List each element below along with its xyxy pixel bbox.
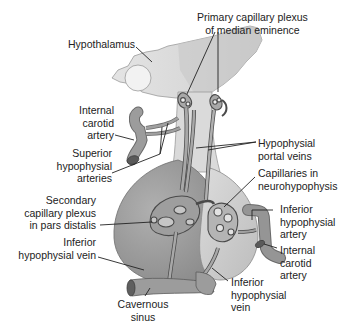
- label-cavernous-sinus: Cavernous sinus: [108, 298, 178, 323]
- label-inferior-hypophysial-vein-right: Inferior hypophysial vein: [231, 276, 286, 314]
- label-hypothalamus: Hypothalamus: [68, 38, 135, 51]
- label-inferior-hypophysial-vein-left: Inferior hypophysial vein: [4, 236, 96, 261]
- label-primary-capillary-plexus: Primary capillary plexus of median emine…: [197, 11, 308, 36]
- label-hypophysial-portal-veins: Hypophysial portal veins: [258, 137, 315, 162]
- label-secondary-capillary-plexus: Secondary capillary plexus in pars dista…: [4, 194, 96, 232]
- label-inferior-hypophysial-artery: Inferior hypophysial artery: [280, 203, 335, 241]
- hypothalamus: [112, 26, 262, 98]
- optic-chiasm: [125, 65, 151, 91]
- internal-carotid-artery-left: [126, 112, 180, 166]
- inferior-hypophysial-artery: [238, 230, 256, 232]
- label-capillaries-neurohypophysis: Capillaries in neurohypophysis: [258, 167, 337, 192]
- label-internal-carotid-artery-left: Internal carotid artery: [68, 104, 114, 142]
- label-superior-hypophysial-arteries: Superior hypophysial arteries: [40, 147, 112, 185]
